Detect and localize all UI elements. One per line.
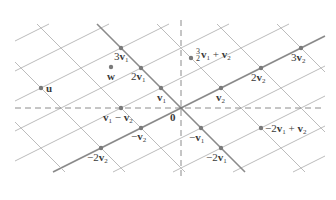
label-v2: v2	[216, 92, 225, 105]
grid-line-v1-family	[157, 24, 305, 172]
label-w: w	[107, 71, 115, 82]
grid-line-v2-family	[15, 24, 109, 71]
point--2v1	[219, 146, 223, 150]
grid-line-v2-family	[15, 24, 169, 101]
point-v1	[159, 86, 163, 90]
grid-line-v1-family	[15, 122, 65, 172]
label-neg-2v2: −2v2	[87, 152, 108, 165]
label-v1: v1	[157, 92, 166, 105]
label-3v2: 3v2	[291, 52, 306, 65]
point-origin	[179, 106, 182, 109]
label-u: u	[46, 83, 52, 94]
grid-line-v2-family	[293, 156, 325, 172]
grid-line-v1-family	[217, 24, 325, 132]
lattice-grid	[0, 0, 336, 200]
label-origin: 0	[170, 112, 176, 123]
label-neg-2v1: −2v1	[206, 152, 227, 165]
point--2v1+v2	[259, 126, 263, 130]
grid-line-v2-family	[15, 24, 49, 41]
grid-line-v2-family	[15, 24, 289, 161]
point-2v2	[259, 66, 263, 70]
point--v1	[199, 126, 203, 130]
point-w	[109, 65, 113, 69]
label-2v1: 2v1	[131, 71, 146, 84]
point-v1-v2	[119, 106, 123, 110]
label-2v2: 2v2	[251, 72, 266, 85]
point-1.5v1+v2	[189, 56, 193, 60]
label-neg-v1: −v1	[189, 132, 204, 145]
point-u	[39, 86, 43, 90]
label-neg-v2: −v2	[131, 131, 146, 144]
point-3v2	[299, 46, 303, 50]
point--2v2	[99, 146, 103, 150]
label-3half-v1-plus-v2: 32v1 + v2	[196, 48, 231, 62]
label-v1-minus-v2: v1 − v2	[103, 112, 133, 125]
lattice-diagram: 0 v1 2v1 3v1 v2 2v2 3v2 v1 − v2 −v2 −2v2…	[0, 0, 336, 200]
point-v2	[219, 86, 223, 90]
label-3v1: 3v1	[114, 51, 129, 64]
label-neg-2v1-plus-v2: −2v1 + v2	[265, 123, 306, 136]
